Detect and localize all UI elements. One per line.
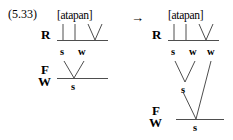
right-surface-form: [atapan] <box>168 9 203 21</box>
rewrite-arrow-icon: → <box>131 11 144 24</box>
left-foot-branches <box>64 61 84 78</box>
right-lower-foot-branches <box>183 61 211 119</box>
left-rhyme-tier-label: R <box>41 29 50 40</box>
right-rhyme-grid-mark-w2: w <box>207 46 215 57</box>
right-foot-grid-mark-s: s <box>193 122 197 133</box>
left-rhyme-grid-mark-w: w <box>78 46 86 57</box>
example-number: (5.33) <box>8 7 37 22</box>
left-rhyme-grid-mark-s: s <box>60 46 64 57</box>
left-foot-grid-mark-s: s <box>71 81 75 92</box>
left-surface-form: [atapan] <box>57 9 92 21</box>
right-rhyme-tier-label: R <box>152 29 161 40</box>
right-rhyme-grid-mark-s: s <box>171 46 175 57</box>
right-word-tier-label: W <box>149 117 162 128</box>
left-rhyme-branches <box>63 24 102 40</box>
left-word-tier-label: W <box>38 76 51 87</box>
figure-canvas: (5.33) [atapan] R s w F W s → [atapan] R… <box>0 0 233 140</box>
right-rhyme-branches <box>174 24 213 40</box>
right-rhyme-grid-mark-w1: w <box>189 46 197 57</box>
right-upper-foot-branches <box>175 61 195 82</box>
right-intermediate-grid-mark-s: s <box>181 84 185 95</box>
